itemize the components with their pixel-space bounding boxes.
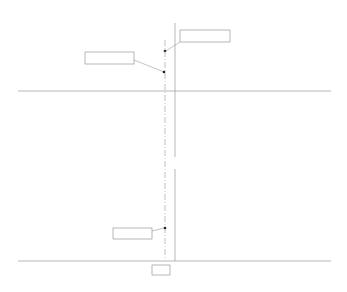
fx-annotation-box: [180, 30, 230, 42]
fy-point: [163, 71, 166, 74]
bottom-chart: [0, 0, 331, 275]
marker-label-box: [152, 265, 170, 275]
chart-canvas: [0, 0, 347, 292]
fy-leader-line: [134, 60, 164, 72]
fx-leader-line: [166, 42, 180, 51]
cmin-leader-line: [152, 228, 164, 231]
cmin-point: [164, 227, 167, 230]
fy-annotation-box: [85, 52, 134, 64]
top-chart: [0, 0, 331, 157]
cmin-annotation-box: [113, 228, 152, 239]
